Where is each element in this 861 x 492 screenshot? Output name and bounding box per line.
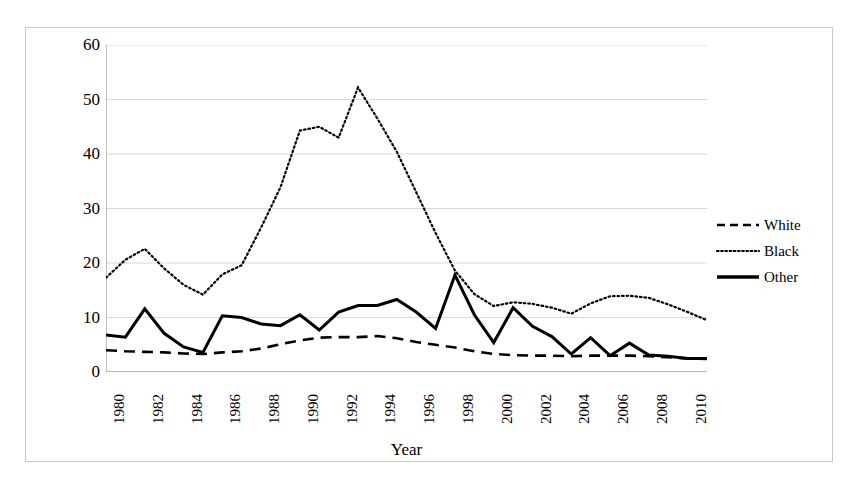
plot-svg <box>106 45 707 372</box>
x-tick-label: 1980 <box>112 394 127 424</box>
series-line-black <box>106 88 707 321</box>
legend-swatch-dotted <box>716 244 760 258</box>
x-tick-label: 2000 <box>500 394 515 424</box>
x-tick-label: 1996 <box>422 394 437 424</box>
chart-figure: Arrest Rate (per 100,000) 0102030405060 … <box>0 0 861 492</box>
x-tick-label: 2008 <box>655 394 670 424</box>
x-tick-label: 2002 <box>539 394 554 424</box>
y-tick-label: 60 <box>66 36 100 53</box>
y-tick-label: 50 <box>66 91 100 108</box>
x-tick-label: 1990 <box>306 394 321 424</box>
x-tick-label: 1998 <box>461 394 476 424</box>
y-tick-label: 40 <box>66 145 100 162</box>
legend-label: Black <box>760 243 799 260</box>
legend-swatch-dashed <box>716 218 760 232</box>
x-tick-label: 1994 <box>383 394 398 424</box>
series-line-white <box>106 336 707 359</box>
x-tick-label: 1984 <box>190 394 205 424</box>
legend-label: Other <box>760 269 798 286</box>
series-line-other <box>106 275 707 358</box>
y-axis-title: Arrest Rate (per 100,000) <box>0 0 12 120</box>
plot-area <box>106 45 707 372</box>
legend-swatch-solid <box>716 270 760 284</box>
x-tick-label-group: 1980198219841986198819901992199419961998… <box>106 378 707 438</box>
x-axis-title: Year <box>106 440 707 460</box>
x-tick-label: 1982 <box>151 394 166 424</box>
y-tick-label-group: 0102030405060 <box>62 45 100 372</box>
chart-legend: WhiteBlackOther <box>716 212 826 290</box>
x-tick-label: 2006 <box>616 394 631 424</box>
y-tick-label: 30 <box>66 200 100 217</box>
legend-label: White <box>760 217 801 234</box>
x-tick-label: 1992 <box>345 394 360 424</box>
y-tick-label: 10 <box>66 309 100 326</box>
legend-item-black[interactable]: Black <box>716 238 826 264</box>
x-tick-label: 2010 <box>694 394 709 424</box>
y-tick-label: 20 <box>66 254 100 271</box>
y-tick-label: 0 <box>66 363 100 380</box>
x-tick-label: 2004 <box>577 394 592 424</box>
legend-item-white[interactable]: White <box>716 212 826 238</box>
x-tick-label: 1986 <box>228 394 243 424</box>
x-tick-label: 1988 <box>267 394 282 424</box>
legend-item-other[interactable]: Other <box>716 264 826 290</box>
